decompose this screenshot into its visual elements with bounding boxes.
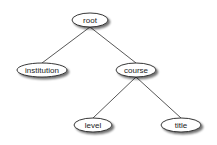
node-title[interactable]: title [161, 118, 201, 132]
node-course[interactable]: course [116, 63, 156, 77]
node-label: root [83, 16, 98, 25]
node-label: course [124, 66, 149, 75]
edge-root-institution [42, 27, 90, 63]
node-label: title [175, 121, 188, 130]
node-label: level [85, 121, 102, 130]
edge-root-course [90, 27, 136, 63]
tree-diagram: rootinstitutioncourseleveltitle [0, 0, 217, 145]
edge-course-level [93, 77, 136, 118]
nodes-layer: rootinstitutioncourseleveltitle [17, 13, 201, 132]
edge-course-title [136, 77, 181, 118]
node-institution[interactable]: institution [17, 63, 67, 77]
node-root[interactable]: root [72, 13, 108, 27]
node-level[interactable]: level [74, 118, 112, 132]
node-label: institution [25, 66, 59, 75]
